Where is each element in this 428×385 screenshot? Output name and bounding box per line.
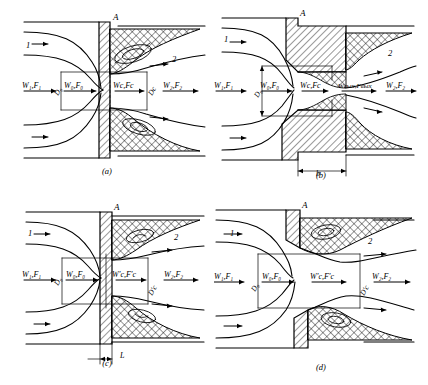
orifice-plate	[99, 22, 110, 158]
label-w0f0: W₀,F₀	[260, 81, 279, 90]
streamline-top-1	[216, 220, 292, 276]
panel-b-caption: (b)	[214, 170, 428, 180]
label-stream-2: 2	[388, 48, 393, 58]
panel-a-caption: (a)	[0, 166, 214, 176]
panel-c-drawing: 1 2 A W₁,F₁ W₀,F₀ W′с,F′с W₂,F₂ D₀ D′с L	[0, 192, 214, 385]
step-wall-top	[286, 210, 300, 248]
throat-recirc-bottom	[298, 94, 346, 110]
label-point-A: A	[112, 12, 119, 22]
label-w1f1: W₁,F₁	[22, 270, 41, 279]
panel-d-drawing: 1 2 A W₁,F₁ W₀,F₀ W′с,F′с W₂,F₂ D₀ D′с	[214, 192, 428, 385]
orifice-block-bottom	[282, 110, 346, 160]
label-wcfc: Wс,Fс	[300, 81, 321, 90]
label-stream-1: 1	[230, 228, 234, 238]
label-wvyh: Wвых,Fвых	[338, 82, 373, 90]
label-w2f2: W₂,F₂	[164, 270, 183, 279]
jet-boundary-bottom	[346, 95, 416, 118]
label-w2f2: W₂,F₂	[386, 81, 405, 90]
panel-d: 1 2 A W₁,F₁ W₀,F₀ W′с,F′с W₂,F₂ D₀ D′с (…	[214, 192, 428, 384]
label-w0f0: W₀,F₀	[64, 81, 83, 90]
step-wall-bottom	[294, 310, 308, 348]
panel-b: 1 2 A W₁,F₁ W₀,F₀ Wс,Fс Wвых,Fвых W₂,F₂ …	[214, 0, 428, 192]
label-point-A: A	[113, 202, 120, 212]
label-w0f0: W₀,F₀	[262, 272, 281, 281]
label-w2f2: W₂,F₂	[372, 272, 391, 281]
label-point-A: A	[301, 200, 308, 210]
label-stream-2: 2	[368, 236, 373, 246]
label-w0f0: W₀,F₀	[66, 270, 85, 279]
label-d0: D₀	[248, 281, 261, 294]
panel-c-caption: (c)	[0, 358, 214, 368]
panel-c: 1 2 A W₁,F₁ W₀,F₀ W′с,F′с W₂,F₂ D₀ D′с L…	[0, 192, 214, 384]
figure-container: 1 2 A W₁,F₁ W₀,F₀ Wс,Fс W₂,F₂ D₀ Dс (a)	[0, 0, 428, 385]
label-w1f1: W₁,F₁	[214, 272, 233, 281]
label-stream-1: 1	[28, 228, 32, 238]
label-dc-prime: D′с	[145, 283, 159, 298]
panel-a: 1 2 A W₁,F₁ W₀,F₀ Wс,Fс W₂,F₂ D₀ Dс (a)	[0, 0, 214, 192]
recirculation-zone-bottom	[308, 307, 412, 340]
recirculation-zone-top	[300, 218, 412, 254]
panel-a-drawing: 1 2 A W₁,F₁ W₀,F₀ Wс,Fс W₂,F₂ D₀ Dс	[0, 0, 214, 192]
label-wcfc-prime: W′с,F′с	[310, 272, 335, 281]
label-w1f1: W₁,F₁	[22, 81, 41, 90]
panel-b-drawing: 1 2 A W₁,F₁ W₀,F₀ Wс,Fс Wвых,Fвых W₂,F₂ …	[214, 0, 428, 192]
label-w2f2: W₂,F₂	[163, 81, 182, 90]
recirculation-zone-bottom	[346, 112, 412, 149]
recirculation-zone-bottom	[112, 296, 200, 338]
label-stream-2: 2	[172, 54, 177, 64]
recirculation-zone-top	[110, 29, 200, 74]
panel-d-caption: (d)	[214, 362, 428, 372]
label-dc: Dс	[145, 84, 158, 98]
label-stream-1: 1	[26, 40, 30, 50]
label-w1f1: W₁,F₁	[214, 81, 233, 90]
recirculation-zone-top	[112, 220, 200, 260]
label-wcfc-prime: W′с,F′с	[112, 270, 137, 279]
label-stream-2: 2	[174, 232, 179, 242]
label-point-A: A	[299, 8, 306, 18]
label-stream-1: 1	[224, 34, 228, 44]
recirculation-zone-top	[346, 33, 412, 70]
label-d0: D₀	[51, 85, 64, 98]
label-wcfc: Wс,Fс	[113, 81, 134, 90]
orifice-block-top	[286, 18, 346, 72]
streamline-top-1	[222, 28, 293, 86]
